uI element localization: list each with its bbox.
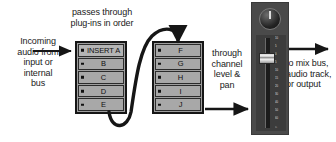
slot-bypass-dot-icon (158, 103, 161, 106)
slot-bypass-dot-icon (158, 63, 161, 66)
slot-bypass-dot-icon (81, 63, 84, 66)
insert-slot-i[interactable]: I (155, 85, 201, 98)
fader-tick: 40 (275, 102, 278, 105)
fader-tick: 10 (275, 69, 278, 72)
incoming-audio-label: Incoming audio from input or internal bu… (2, 36, 74, 89)
fader-tick: 0 (275, 53, 276, 56)
insert-slot-label: INSERT A (82, 46, 120, 55)
slot-bypass-dot-icon (81, 76, 84, 79)
slot-bypass-dot-icon (81, 103, 84, 106)
insert-rack-b: F G H I J (152, 41, 204, 114)
channel-fader-handle[interactable] (259, 53, 275, 64)
knob-pointer-icon (269, 11, 271, 19)
insert-slot-g[interactable]: G (155, 58, 201, 71)
pan-knob[interactable] (259, 8, 281, 30)
insert-slot-label: H (173, 73, 183, 82)
fader-tick: 15 (275, 77, 278, 80)
fader-scale: 10 5 0 5 10 15 20 30 40 50 60 ∞ (275, 37, 285, 129)
fader-tick: 5 (275, 45, 276, 48)
insert-slot-label: E (96, 100, 106, 109)
fader-track[interactable] (265, 38, 270, 128)
through-channel-level-pan-label: through channel level & pan (200, 48, 254, 90)
slot-bypass-dot-icon (81, 49, 84, 52)
insert-slot-d[interactable]: D (78, 85, 124, 98)
insert-slot-label: G (173, 59, 184, 68)
insert-slot-label: I (175, 87, 182, 96)
insert-slot-label: C (96, 73, 106, 82)
fader-tick: 60 (275, 118, 278, 121)
fader-tick: 5 (275, 61, 276, 64)
channel-strip: 10 5 0 5 10 15 20 30 40 50 60 ∞ (251, 2, 289, 135)
fader-tick: 20 (275, 85, 278, 88)
insert-slot-label: J (174, 100, 183, 109)
output-destination-label: to mix bus, audio track, or output (286, 58, 336, 90)
insert-rack-a: INSERT A B C D E (75, 41, 127, 114)
slot-bypass-dot-icon (158, 49, 161, 52)
insert-slot-e[interactable]: E (78, 98, 124, 111)
insert-slot-b[interactable]: B (78, 58, 124, 71)
insert-slot-h[interactable]: H (155, 71, 201, 84)
insert-slot-label: B (96, 59, 106, 68)
passes-through-plugins-label: passes through plug-ins in order (64, 7, 140, 28)
slot-bypass-dot-icon (158, 76, 161, 79)
fader-tick: 30 (275, 93, 278, 96)
insert-slot-a[interactable]: INSERT A (78, 44, 124, 57)
insert-slot-label: D (96, 87, 106, 96)
fader-tick: 10 (275, 37, 278, 40)
slot-bypass-dot-icon (81, 90, 84, 93)
signal-flow-diagram: Incoming audio from input or internal bu… (0, 0, 336, 142)
insert-slot-j[interactable]: J (155, 98, 201, 111)
fader-tick: ∞ (275, 126, 277, 129)
fader-tick: 50 (275, 110, 278, 113)
slot-bypass-dot-icon (158, 90, 161, 93)
insert-slot-c[interactable]: C (78, 71, 124, 84)
fader-well: 10 5 0 5 10 15 20 30 40 50 60 ∞ (256, 35, 286, 131)
insert-slot-label: F (173, 46, 182, 55)
insert-slot-f[interactable]: F (155, 44, 201, 57)
